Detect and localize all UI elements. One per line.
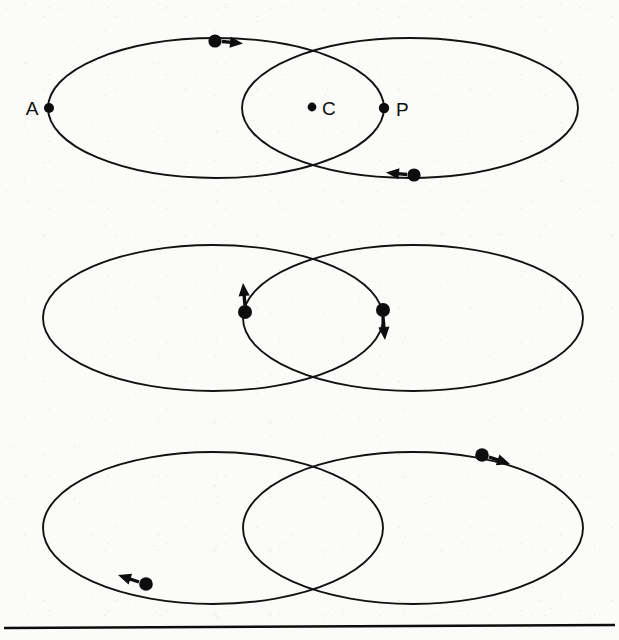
bottom-panel xyxy=(43,448,583,604)
center-marker-label: C xyxy=(322,98,336,119)
apoapsis-marker xyxy=(44,103,54,113)
bottom-panel-particle-upper-right xyxy=(475,448,489,462)
middle-panel-particle-left-crossing xyxy=(238,305,252,319)
middle-panel xyxy=(43,245,583,391)
middle-panel-velocity-arrow-up-shaft xyxy=(244,294,245,305)
middle-panel-particle-right-crossing xyxy=(376,303,390,317)
middle-panel-left-orbit xyxy=(43,245,383,391)
bottom-panel-right-orbit xyxy=(243,452,583,604)
figure-canvas: ACP xyxy=(0,0,619,640)
bottom-panel-particle-lower-left xyxy=(139,577,153,591)
bottom-panel-left-orbit xyxy=(43,452,383,604)
middle-panel-right-orbit xyxy=(243,245,583,391)
middle-panel-velocity-arrow-up-head xyxy=(239,283,250,296)
bottom-panel-velocity-arrow-left-up-head xyxy=(118,574,132,585)
bottom-panel-velocity-arrow-right-down-head xyxy=(496,455,510,466)
figure-content: ACP xyxy=(4,34,615,628)
top-panel-particle-upper-left xyxy=(208,34,221,47)
periapsis-marker-label: P xyxy=(396,99,409,120)
top-panel-particle-lower-right xyxy=(407,168,420,181)
bottom-panel-velocity-arrow-left-up-shaft xyxy=(129,579,139,582)
center-marker xyxy=(308,103,317,112)
horizontal-rule xyxy=(4,625,615,628)
periapsis-marker xyxy=(379,103,389,113)
middle-panel-velocity-arrow-down-shaft xyxy=(383,317,384,329)
top-panel: ACP xyxy=(26,34,578,181)
apoapsis-marker-label: A xyxy=(26,98,39,119)
orbit-figure: ACP xyxy=(0,0,619,640)
top-panel-right-orbit xyxy=(242,38,578,178)
